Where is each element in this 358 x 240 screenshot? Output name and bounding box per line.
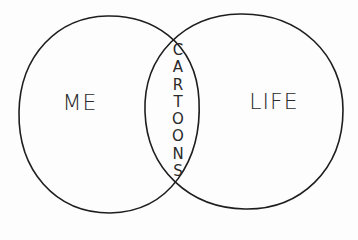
- intersection-label-letter: N: [168, 146, 188, 163]
- intersection-label: CARTOONS: [168, 42, 188, 180]
- intersection-label-letter: O: [168, 111, 188, 128]
- intersection-label-letter: T: [168, 94, 188, 111]
- intersection-label-letter: A: [168, 59, 188, 76]
- set-label-me: ME: [63, 92, 98, 114]
- intersection-label-letter: C: [168, 42, 188, 59]
- intersection-label-letter: S: [168, 163, 188, 180]
- intersection-label-letter: R: [168, 77, 188, 94]
- intersection-label-letter: O: [168, 128, 188, 145]
- set-label-life: LIFE: [249, 91, 298, 113]
